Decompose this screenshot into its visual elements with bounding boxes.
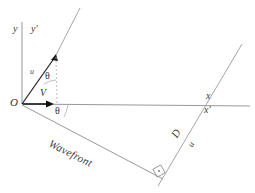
u-projection-line	[56, 57, 57, 104]
diagram-canvas	[0, 0, 255, 193]
theta-top-label: θ	[45, 71, 50, 81]
y-prime-axis-label: y′	[31, 24, 38, 34]
arrowhead-diagonal-icon	[51, 54, 58, 61]
wavefront-line	[22, 105, 163, 179]
origin-label: O	[10, 97, 18, 108]
right-angle-icon	[153, 165, 165, 177]
x-prime-axis-label: x′	[204, 105, 211, 115]
velocity-label: V	[40, 88, 46, 98]
wavefront-diagram: y y′ O u θ V θ x x′ Wavefront D u	[0, 0, 255, 193]
y-axis-label: y	[13, 24, 17, 34]
u-vector-label: u	[30, 68, 34, 76]
u-vector-line	[22, 57, 55, 104]
theta-bottom-label: θ	[55, 106, 60, 116]
arrowhead-right-icon	[46, 101, 54, 108]
x-prime-axis-line	[158, 44, 242, 186]
y-prime-axis-line	[56, 8, 80, 55]
x-axis-label: x	[206, 91, 210, 101]
theta-bottom-arc	[64, 105, 68, 117]
